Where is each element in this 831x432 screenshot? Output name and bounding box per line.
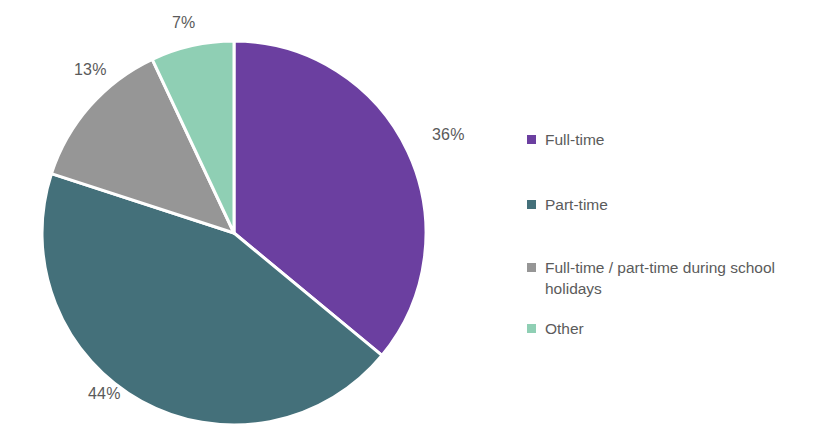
- legend-item-label: Full-time / part-time during school holi…: [545, 257, 817, 299]
- legend-item-label: Other: [545, 318, 584, 339]
- legend-item-label: Full-time: [545, 129, 604, 150]
- data-label-other: 7%: [172, 14, 196, 32]
- legend-item-full-time[interactable]: Full-time: [527, 129, 817, 150]
- legend-item-part-time[interactable]: Part-time: [527, 194, 817, 215]
- data-label-full-time: 36%: [432, 126, 465, 144]
- legend-swatch-icon: [527, 263, 536, 272]
- legend-swatch-icon: [527, 200, 536, 209]
- pie-chart: 36% 44% 13% 7% Full-time Part-time Full-…: [0, 0, 831, 432]
- legend-swatch-icon: [527, 135, 536, 144]
- legend-item-other[interactable]: Other: [527, 318, 817, 339]
- legend-item-label: Part-time: [545, 194, 608, 215]
- data-label-part-time: 44%: [88, 385, 121, 403]
- data-label-school-holidays: 13%: [74, 61, 107, 79]
- pie-plot-area: 36% 44% 13% 7%: [0, 0, 500, 432]
- pie-slice-group: [42, 41, 426, 425]
- legend-item-school-holidays[interactable]: Full-time / part-time during school holi…: [527, 257, 817, 299]
- legend-swatch-icon: [527, 324, 536, 333]
